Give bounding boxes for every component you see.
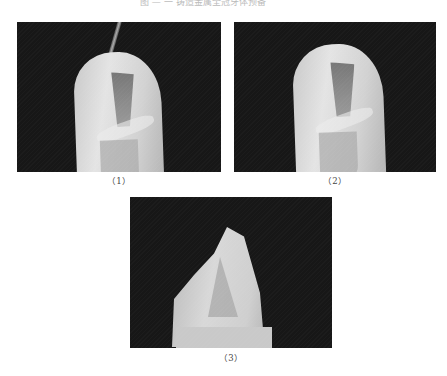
tooth-preparation xyxy=(73,51,164,172)
page-header: 图 — 一 铸造金属全冠牙体预备 xyxy=(140,0,320,6)
tooth-root-shadow xyxy=(319,131,359,172)
prepared-groove xyxy=(108,71,138,127)
tooth-root-shadow xyxy=(100,139,140,172)
tooth-preparation xyxy=(172,227,272,347)
figure-1-photo xyxy=(17,22,221,172)
prepared-groove xyxy=(327,61,359,117)
prepared-groove xyxy=(208,257,238,317)
header-text: 图 — 一 铸造金属全冠牙体预备 xyxy=(140,0,266,6)
tooth-preparation xyxy=(292,42,387,172)
tooth-ridge xyxy=(314,104,375,138)
dental-instrument xyxy=(108,22,123,58)
figure-2-photo xyxy=(234,22,436,172)
tooth-base xyxy=(176,327,272,348)
figure-3-caption: （3） xyxy=(219,351,242,363)
figure-1-caption: （1） xyxy=(107,174,130,186)
figure-2-caption: （2） xyxy=(323,174,346,186)
figure-3-photo xyxy=(130,197,332,348)
tooth-ridge xyxy=(95,112,156,146)
